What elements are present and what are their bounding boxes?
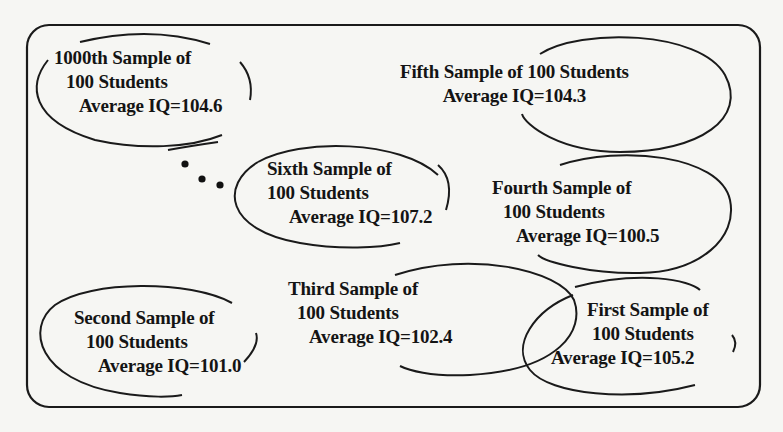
sample-subtitle: 100 Students <box>297 301 452 325</box>
sample-label-1000th: 1000th Sample of 100 Students Average IQ… <box>54 46 222 118</box>
sample-title: Sixth Sample of <box>267 157 432 181</box>
sample-title: Fourth Sample of <box>492 176 659 200</box>
sample-average: Average IQ=107.2 <box>289 205 432 229</box>
sample-subtitle: 100 Students <box>66 70 222 94</box>
sample-subtitle: 100 Students <box>592 322 709 346</box>
sample-subtitle: 100 Students <box>86 330 241 354</box>
sample-label-fifth: Fifth Sample of 100 Students Average IQ=… <box>400 60 629 108</box>
sample-title: Third Sample of <box>288 277 452 301</box>
sample-label-third: Third Sample of 100 Students Average IQ=… <box>288 277 452 349</box>
sample-title: Second Sample of <box>74 306 241 330</box>
sample-title: First Sample of <box>587 298 709 322</box>
sample-average: Average IQ=102.4 <box>309 325 452 349</box>
sample-label-first: First Sample of 100 Students Average IQ=… <box>551 298 709 370</box>
sample-subtitle: 100 Students <box>267 181 432 205</box>
sample-label-fourth: Fourth Sample of 100 Students Average IQ… <box>492 176 659 248</box>
sample-average: Average IQ=101.0 <box>98 354 241 378</box>
sample-subtitle: 100 Students <box>503 200 659 224</box>
sample-title: 1000th Sample of <box>54 46 222 70</box>
sample-average: Average IQ=105.2 <box>551 346 709 370</box>
sample-title: Fifth Sample of 100 Students <box>400 60 629 84</box>
sample-average: Average IQ=104.6 <box>79 94 222 118</box>
sample-label-sixth: Sixth Sample of 100 Students Average IQ=… <box>267 157 432 229</box>
continuation-dots-icon <box>181 160 223 188</box>
sample-average: Average IQ=100.5 <box>516 224 659 248</box>
sample-average: Average IQ=104.3 <box>400 84 629 108</box>
sample-label-second: Second Sample of 100 Students Average IQ… <box>74 306 241 378</box>
